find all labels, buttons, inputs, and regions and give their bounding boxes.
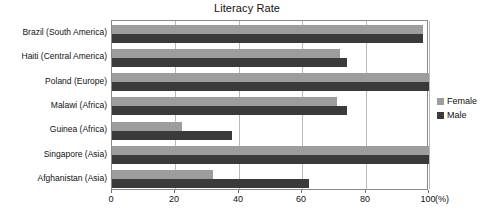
bar-male-2 — [112, 82, 429, 91]
legend-item-male[interactable]: Male — [437, 109, 494, 121]
chart-container: Literacy Rate Brazil (South America)Hait… — [0, 0, 494, 219]
x-tick-label-60: 60 — [296, 194, 306, 205]
y-axis-label-6: Afghanistan (Asia) — [0, 173, 107, 183]
bar-male-4 — [112, 131, 232, 140]
x-tick-label-100: 100 — [420, 194, 435, 205]
x-tick-label-40: 40 — [233, 194, 243, 205]
bar-female-0 — [112, 25, 423, 34]
x-tick-label-20: 20 — [169, 194, 179, 205]
y-axis-label-0: Brazil (South America) — [0, 27, 107, 37]
y-axis-label-4: Guinea (Africa) — [0, 124, 107, 134]
x-tick-label-0: 0 — [108, 194, 113, 205]
x-tick-mark-20 — [174, 190, 175, 193]
bar-female-1 — [112, 49, 340, 58]
chart-title: Literacy Rate — [0, 1, 494, 15]
legend-label-male: Male — [447, 110, 467, 121]
bar-male-0 — [112, 34, 423, 43]
bar-male-3 — [112, 106, 347, 115]
bar-female-6 — [112, 170, 213, 179]
chart-legend: FemaleMale — [437, 95, 494, 123]
x-tick-mark-40 — [238, 190, 239, 193]
y-axis-category-labels: Brazil (South America)Haiti (Central Ame… — [0, 20, 107, 190]
y-axis-label-1: Haiti (Central America) — [0, 51, 107, 61]
x-axis-unit-label: (%) — [435, 194, 449, 205]
bar-male-5 — [112, 155, 429, 164]
plot-area — [111, 20, 428, 190]
y-axis-label-2: Poland (Europe) — [0, 76, 107, 86]
x-tick-mark-80 — [365, 190, 366, 193]
y-axis-label-3: Malawi (Africa) — [0, 100, 107, 110]
bar-male-1 — [112, 58, 347, 67]
x-axis-ticks: 020406080100 — [111, 190, 431, 208]
legend-item-female[interactable]: Female — [437, 95, 494, 107]
legend-swatch-female-icon — [437, 98, 444, 105]
bar-male-6 — [112, 179, 309, 188]
legend-swatch-male-icon — [437, 112, 444, 119]
gridline-100 — [429, 21, 430, 189]
bar-female-4 — [112, 122, 182, 131]
plot-inner — [112, 21, 427, 189]
chart-title-text: Literacy Rate — [214, 1, 280, 15]
y-axis-label-5: Singapore (Asia) — [0, 149, 107, 159]
x-tick-mark-0 — [111, 190, 112, 193]
bar-female-3 — [112, 97, 337, 106]
x-tick-mark-100 — [428, 190, 429, 193]
bar-female-5 — [112, 146, 429, 155]
x-tick-mark-60 — [301, 190, 302, 193]
legend-label-female: Female — [447, 96, 477, 107]
bar-female-2 — [112, 73, 429, 82]
x-tick-label-80: 80 — [360, 194, 370, 205]
